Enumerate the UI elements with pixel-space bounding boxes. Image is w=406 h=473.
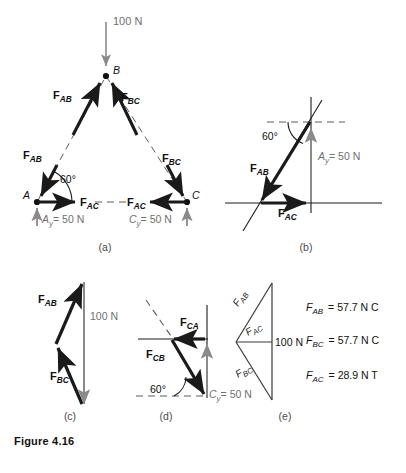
load-label-100n-e: 100 N bbox=[275, 336, 303, 348]
force-label-fcb-d: FCB bbox=[146, 348, 165, 363]
applied-load-100n-a: 100 N bbox=[106, 15, 142, 66]
force-label-fab-at-a: FAB bbox=[23, 149, 42, 164]
force-label-fbc-e: FBC bbox=[233, 361, 255, 382]
panel-label-e: (e) bbox=[279, 410, 292, 422]
reaction-label-ay-b: Ay= 50 N bbox=[317, 150, 360, 165]
panel-c: FAB FBC 100 N (c) bbox=[38, 282, 118, 422]
figure-4-16-diagram: 100 N B FAB FBC A FAB 60° bbox=[0, 0, 406, 473]
joint-label-b: B bbox=[113, 64, 120, 76]
force-fcb-arrow-d bbox=[172, 340, 204, 394]
reaction-label-cy-d: Cy= 50 N bbox=[209, 388, 252, 403]
reaction-label-ay: Ay= 50 N bbox=[41, 213, 84, 228]
load-label-100n-c: 100 N bbox=[90, 310, 118, 322]
panel-label-c: (c) bbox=[64, 410, 76, 422]
joint-label-a: A bbox=[22, 189, 30, 201]
result-fbc: FBC=57.7 N C bbox=[306, 334, 380, 349]
angle-label-60-a: 60° bbox=[60, 173, 76, 185]
load-label-100n-a: 100 N bbox=[113, 15, 142, 27]
force-label-fab-e: FAB bbox=[230, 288, 250, 309]
panel-label-d: (d) bbox=[160, 410, 173, 422]
force-label-fca-d: FCA bbox=[180, 316, 199, 331]
force-fab-at-b-arrow bbox=[73, 83, 100, 135]
angle-arc-60-d bbox=[174, 377, 186, 396]
force-fab-arrow-c bbox=[56, 284, 82, 344]
force-label-fbc-at-c: FBC bbox=[162, 152, 182, 167]
force-fab-at-a-arrow bbox=[41, 165, 57, 196]
dashed-member-d bbox=[146, 300, 171, 336]
force-label-fac-at-c: FAC bbox=[127, 196, 147, 211]
figure-caption: Figure 4.16 bbox=[14, 435, 74, 447]
force-label-fac-b: FAC bbox=[278, 207, 298, 222]
angle-label-60-b: 60° bbox=[262, 130, 278, 142]
panel-d: FCA FCB 60° Cy= 50 N (d) bbox=[136, 300, 252, 422]
panel-e: FAB FAC FBC 100 N FAB=57.7 N C FBC=57.7 … bbox=[230, 283, 379, 422]
force-label-fac-at-a: FAC bbox=[80, 196, 100, 211]
reaction-label-cy: Cy= 50 N bbox=[129, 213, 172, 228]
angle-label-60-d: 60° bbox=[150, 383, 166, 395]
angle-arc-60-b bbox=[288, 122, 303, 144]
panel-label-b: (b) bbox=[300, 241, 313, 253]
force-label-fab-at-b: FAB bbox=[53, 89, 72, 104]
force-label-fbc-at-b: FBC bbox=[121, 91, 141, 106]
force-label-fab-c: FAB bbox=[38, 293, 57, 308]
joint-b-node bbox=[103, 73, 109, 79]
result-fab: FAB=57.7 N C bbox=[306, 301, 379, 316]
force-fbc-at-c-arrow bbox=[167, 165, 183, 196]
panel-label-a: (a) bbox=[99, 241, 112, 253]
panel-a: 100 N B FAB FBC A FAB 60° bbox=[22, 15, 200, 253]
force-label-fab-b: FAB bbox=[250, 162, 269, 177]
panel-b: 60° FAB FAC Ay= 50 N (b) bbox=[225, 97, 382, 253]
joint-label-c: C bbox=[192, 189, 200, 201]
result-fac: FAC=28.9 N T bbox=[306, 369, 378, 384]
force-label-fac-e: FAC bbox=[243, 319, 265, 340]
